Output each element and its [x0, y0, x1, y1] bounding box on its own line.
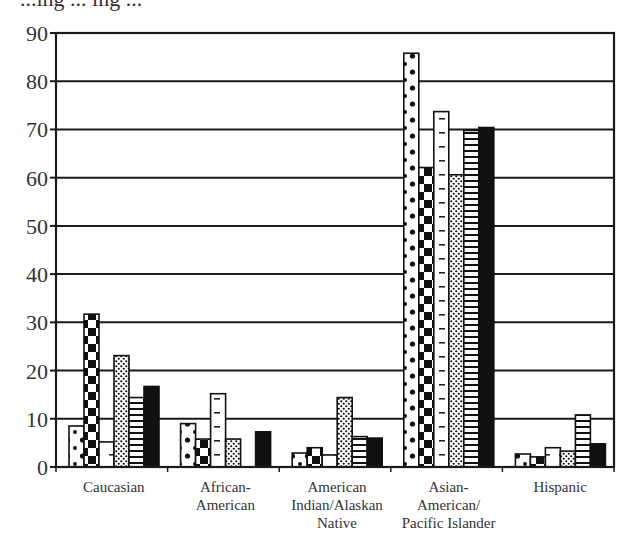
bar-group-asian-american-pacific-islander	[404, 53, 494, 467]
y-tick-label: 30	[26, 310, 48, 335]
y-tick-label: 60	[26, 166, 48, 191]
bar-group-american-indian-alaskan-native	[292, 398, 382, 467]
bar	[99, 442, 114, 467]
bar	[256, 432, 271, 467]
bar	[69, 426, 84, 467]
bar-group-hispanic	[515, 415, 605, 467]
bar	[560, 451, 575, 467]
bar	[434, 112, 449, 467]
bar	[196, 439, 211, 467]
x-category-label: AmericanIndian/AlaskanNative	[291, 479, 383, 531]
bar	[575, 415, 590, 467]
bar	[337, 398, 352, 467]
bar	[322, 455, 337, 467]
bar	[129, 398, 144, 467]
bar	[307, 448, 322, 467]
bar	[84, 314, 99, 467]
y-axis-tick-labels: 0102030405060708090	[26, 21, 48, 480]
bar	[419, 168, 434, 467]
bar	[479, 128, 494, 467]
x-category-label: Caucasian	[83, 479, 145, 495]
bar	[515, 454, 530, 467]
y-tick-label: 20	[26, 359, 48, 384]
bar	[144, 386, 159, 467]
y-tick-label: 70	[26, 117, 48, 142]
x-category-label: African-American	[196, 479, 256, 513]
bar	[211, 394, 226, 467]
bar	[464, 130, 479, 467]
bar	[530, 457, 545, 467]
x-axis-category-labels: CaucasianAfrican-AmericanAmericanIndian/…	[83, 479, 587, 531]
bar	[545, 448, 560, 467]
bar	[449, 175, 464, 467]
y-tick-label: 10	[26, 407, 48, 432]
bar-groups	[69, 53, 605, 467]
y-tick-label: 40	[26, 262, 48, 287]
bar	[181, 424, 196, 467]
bar	[367, 438, 382, 467]
y-tick-label: 0	[37, 455, 48, 480]
y-tick-label: 50	[26, 214, 48, 239]
bar	[590, 444, 605, 467]
bar	[292, 453, 307, 467]
bar	[404, 53, 419, 467]
bar	[114, 356, 129, 467]
bar	[352, 437, 367, 467]
y-tick-label: 80	[26, 69, 48, 94]
grouped-bar-chart: 0102030405060708090 CaucasianAfrican-Ame…	[0, 0, 631, 551]
x-category-label: Asian-American/Pacific Islander	[402, 479, 496, 531]
bar-group-african-american	[181, 394, 271, 467]
x-category-label: Hispanic	[534, 479, 588, 495]
y-tick-label: 90	[26, 21, 48, 46]
bar	[226, 439, 241, 467]
bar-group-caucasian	[69, 314, 159, 467]
